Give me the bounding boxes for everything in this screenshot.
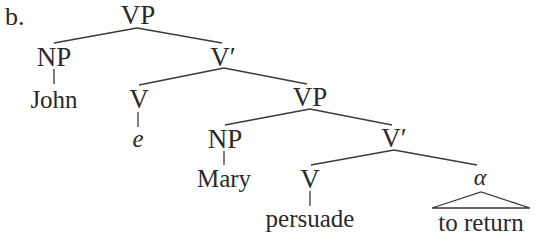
node-v-empty: V [129, 86, 149, 113]
syntax-tree-diagram: b. VP NP John V′ V e VP NP Mary V′ V per… [0, 0, 541, 247]
word-persuade: persuade [266, 206, 355, 231]
edge-vbar2-alpha [394, 150, 477, 165]
edge-vp-vbar [137, 28, 222, 43]
node-vp-inner: VP [293, 84, 328, 111]
node-v-main: V [300, 166, 320, 193]
word-john: John [30, 87, 77, 112]
node-alpha: α [474, 165, 487, 189]
example-label: b. [5, 4, 25, 30]
word-to-return: to return [438, 210, 523, 235]
alpha-triangle [432, 192, 530, 208]
node-np-object: NP [208, 126, 243, 153]
node-vbar-2: V′ [381, 125, 406, 152]
node-vp-root: VP [121, 2, 156, 29]
word-e: e [132, 126, 143, 151]
word-mary: Mary [197, 166, 251, 191]
node-vbar-1: V′ [210, 44, 235, 71]
node-np-subject: NP [37, 44, 72, 71]
edge-vp-np [54, 28, 137, 43]
